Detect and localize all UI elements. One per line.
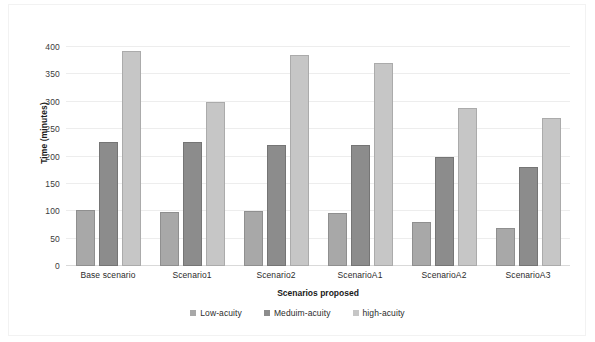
bar <box>542 118 561 266</box>
y-axis-tick-label: 50 <box>26 234 60 244</box>
bar <box>496 228 515 266</box>
bar <box>519 167 538 266</box>
bar <box>160 212 179 266</box>
x-axis-tick-label: Scenario2 <box>234 270 318 280</box>
bar-group <box>402 47 486 266</box>
x-axis-tick-label: ScenarioA1 <box>318 270 402 280</box>
bar <box>76 210 95 266</box>
legend-swatch-icon <box>190 310 196 316</box>
bar <box>290 55 309 266</box>
legend-swatch-icon <box>353 310 359 316</box>
legend-label: Low-acuity <box>200 308 242 318</box>
x-axis-tick-labels: Base scenarioScenario1Scenario2ScenarioA… <box>66 270 570 280</box>
plot-area <box>66 47 570 266</box>
x-axis-tick-label: Base scenario <box>66 270 150 280</box>
legend-swatch-icon <box>264 310 270 316</box>
chart-legend: Low-acuityMeduim-acuityhigh-acuity <box>0 308 595 318</box>
bar <box>183 142 202 266</box>
bar-group <box>486 47 570 266</box>
y-axis-tick-label: 400 <box>26 42 60 52</box>
legend-item[interactable]: Meduim-acuity <box>264 308 331 318</box>
bar <box>99 142 118 266</box>
bar <box>412 222 431 266</box>
bar-group <box>150 47 234 266</box>
bar <box>244 211 263 266</box>
bar-group <box>318 47 402 266</box>
legend-item[interactable]: Low-acuity <box>190 308 242 318</box>
bar-group <box>66 47 150 266</box>
legend-label: high-acuity <box>363 308 405 318</box>
x-axis-tick-label: Scenario1 <box>150 270 234 280</box>
bar-groups <box>66 47 570 266</box>
bar <box>328 213 347 266</box>
x-axis-title: Scenarios proposed <box>66 288 570 298</box>
bar <box>458 108 477 266</box>
y-axis-tick-label: 100 <box>26 206 60 216</box>
y-axis-tick-label: 200 <box>26 152 60 162</box>
y-axis-tick-labels: 050100150200250300350400 <box>20 47 60 266</box>
bar <box>122 51 141 266</box>
legend-item[interactable]: high-acuity <box>353 308 405 318</box>
bar <box>267 145 286 266</box>
bar-group <box>234 47 318 266</box>
x-axis-tick-label: ScenarioA3 <box>486 270 570 280</box>
x-axis-tick-label: ScenarioA2 <box>402 270 486 280</box>
bar <box>351 145 370 266</box>
bar <box>374 63 393 266</box>
y-axis-tick-label: 350 <box>26 69 60 79</box>
bar <box>206 102 225 266</box>
legend-label: Meduim-acuity <box>274 308 331 318</box>
y-axis-tick-label: 0 <box>26 261 60 271</box>
bar <box>435 157 454 267</box>
y-axis-tick-label: 150 <box>26 179 60 189</box>
bar-chart-figure: Time (minutes) 050100150200250300350400 … <box>0 0 595 342</box>
y-axis-tick-label: 300 <box>26 97 60 107</box>
y-axis-tick-label: 250 <box>26 124 60 134</box>
